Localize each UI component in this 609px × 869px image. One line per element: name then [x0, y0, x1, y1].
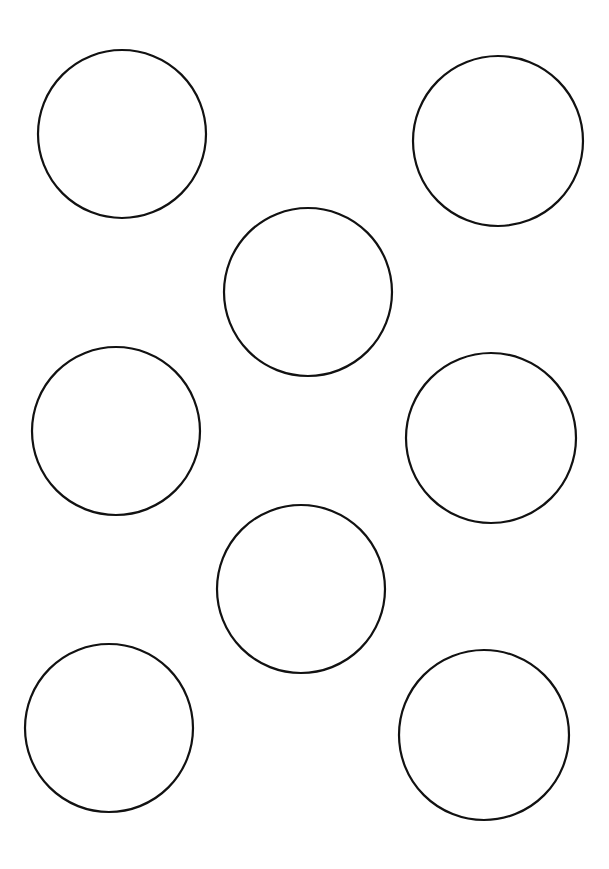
circle-7 — [25, 644, 193, 812]
circle-6 — [217, 505, 385, 673]
circle-3 — [224, 208, 392, 376]
circle-5 — [406, 353, 576, 523]
circle-1 — [38, 50, 206, 218]
circle-2 — [413, 56, 583, 226]
circle-4 — [32, 347, 200, 515]
diagram-canvas — [0, 0, 609, 869]
circles-layer — [0, 0, 609, 869]
circle-8 — [399, 650, 569, 820]
